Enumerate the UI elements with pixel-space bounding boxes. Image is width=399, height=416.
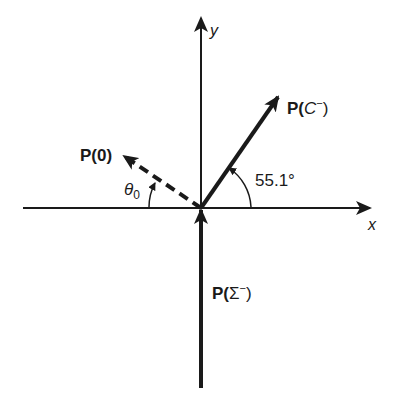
angle-arc-55	[229, 168, 251, 207]
label-theta0: θ0	[124, 180, 140, 202]
x-axis-label: x	[367, 216, 377, 233]
y-axis-label: y	[209, 22, 219, 39]
label-p-c-minus: P(C−)	[287, 97, 328, 118]
vector-diagram: y x P(C−) P(0) θ0 55.1° P(Σ−)	[0, 0, 399, 416]
vector-p-c-minus	[201, 97, 278, 208]
label-p-sigma-minus: P(Σ−)	[212, 282, 252, 303]
angle-arc-theta0	[149, 183, 155, 207]
label-p-zero: P(0)	[80, 146, 112, 165]
label-angle-55: 55.1°	[255, 171, 295, 190]
